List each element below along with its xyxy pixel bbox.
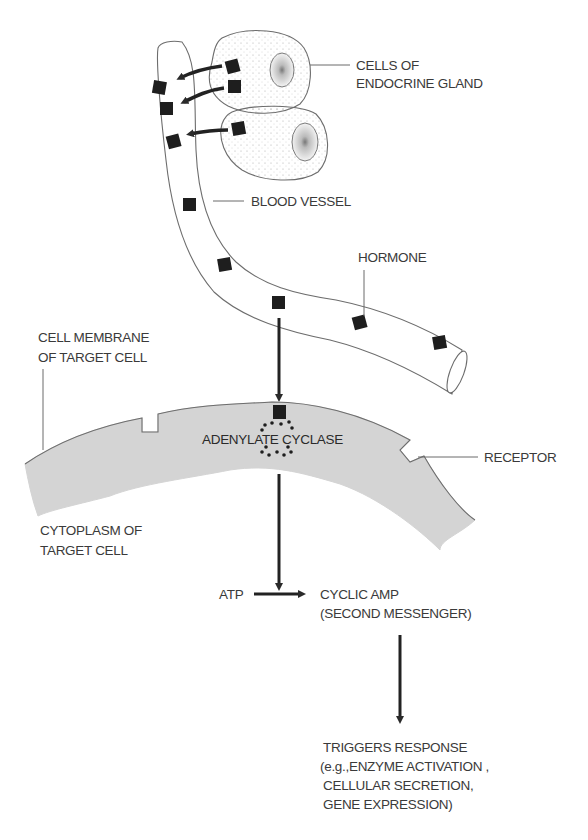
gland-cell-upper (209, 31, 310, 114)
cyclic-amp-label-line-2: (SECOND MESSENGER) (320, 606, 471, 621)
cell-membrane-label-line-2: OF TARGET CELL (38, 350, 148, 365)
endocrine-label-line-1: CELLS OF (356, 58, 419, 73)
hormone-in-vessel-4 (183, 198, 196, 211)
hormone-in-cell-3 (231, 121, 246, 136)
hormone-signaling-diagram: ADENYLATE CYCLASE CELLS OF ENDOCRINE GLA… (0, 0, 588, 840)
hormone-in-cell-2 (228, 80, 241, 93)
cytoplasm-label-line-2: TARGET CELL (40, 543, 129, 558)
response-label-line-2: (e.g.,ENZYME ACTIVATION , (320, 759, 489, 774)
cytoplasm-label-line-1: CYTOPLASM OF (40, 523, 142, 538)
cyclic-amp-label-line-1: CYCLIC AMP (320, 587, 399, 602)
hormone-in-vessel-2 (160, 102, 173, 115)
response-label-line-3: CELLULAR SECRETION, (323, 778, 473, 793)
cell-membrane-label-line-1: CELL MEMBRANE (38, 330, 149, 345)
hormone-in-vessel-8 (432, 335, 447, 350)
hormone-in-vessel-1 (152, 80, 167, 95)
hormone-bound (273, 405, 286, 419)
hormone-in-vessel-5 (217, 257, 232, 272)
hormone-in-vessel-7 (352, 314, 368, 330)
receptor-label: RECEPTOR (484, 450, 557, 465)
endocrine-label-line-2: ENDOCRINE GLAND (356, 76, 483, 91)
response-label-line-4: GENE EXPRESSION) (323, 797, 452, 812)
endocrine-gland-cells (209, 31, 327, 180)
nucleus-lower (292, 123, 318, 161)
adenylate-cyclase-label: ADENYLATE CYCLASE (202, 432, 343, 447)
response-label-line-1: TRIGGERS RESPONSE (323, 740, 467, 755)
atp-label: ATP (219, 587, 244, 602)
hormone-in-vessel-6 (272, 296, 285, 309)
nucleus-upper (270, 53, 294, 87)
blood-vessel-opening (443, 349, 471, 395)
hormone-in-vessel-3 (166, 133, 182, 149)
hormone-label: HORMONE (358, 250, 427, 265)
blood-vessel-label: BLOOD VESSEL (251, 194, 352, 209)
